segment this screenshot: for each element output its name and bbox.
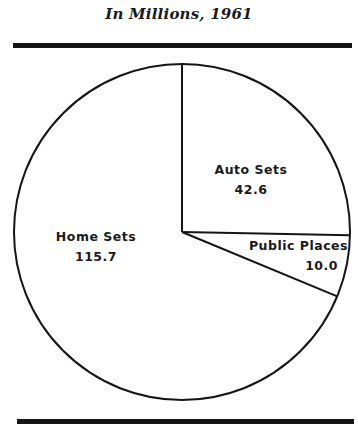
slice-value: 115.7 xyxy=(30,247,162,267)
slice-label-public-places: Public Places 10.0 xyxy=(228,236,348,276)
pie-chart xyxy=(0,0,358,437)
slice-label-auto-sets: Auto Sets 42.6 xyxy=(196,160,306,200)
slice-name: Auto Sets xyxy=(196,160,306,180)
slice-label-home-sets: Home Sets 115.7 xyxy=(30,227,162,267)
slice-value: 10.0 xyxy=(228,256,348,276)
bottom-rule xyxy=(17,419,354,424)
slice-name: Public Places xyxy=(228,236,348,256)
slice-value: 42.6 xyxy=(196,180,306,200)
slice-name: Home Sets xyxy=(30,227,162,247)
